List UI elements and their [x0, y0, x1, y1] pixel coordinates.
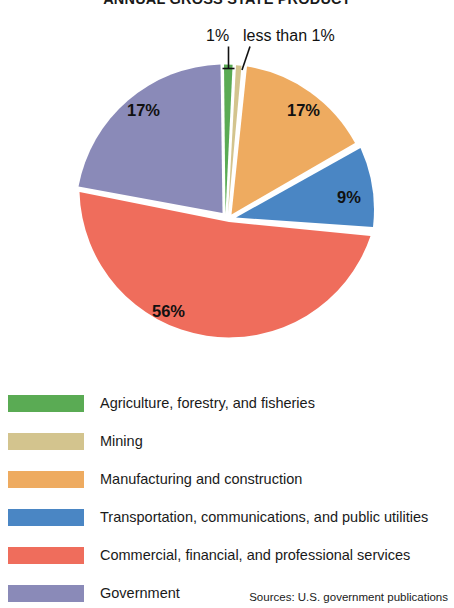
source-note: Sources: U.S. government publications	[249, 591, 448, 603]
legend-swatch-transportation	[8, 509, 84, 526]
legend-swatch-government	[8, 585, 84, 602]
pie-chart-svg	[0, 0, 454, 380]
slice-label-commercial: 56%	[152, 302, 185, 321]
legend-label-manufacturing: Manufacturing and construction	[100, 471, 302, 487]
legend-item-transportation[interactable]: Transportation, communications, and publ…	[0, 498, 454, 536]
slice-label-manufacturing: 17%	[287, 101, 320, 120]
legend: Agriculture, forestry, and fisheries Min…	[0, 384, 454, 608]
pie-slice-government[interactable]	[79, 65, 223, 214]
legend-label-mining: Mining	[100, 433, 143, 449]
legend-swatch-agriculture	[8, 395, 84, 412]
pie-chart: 1% less than 1% 17% 17% 9% 56%	[0, 0, 454, 380]
pie-slice-agriculture[interactable]	[224, 65, 233, 215]
callout-agriculture: 1%	[206, 27, 229, 45]
slice-label-transportation: 9%	[337, 188, 361, 207]
legend-label-government: Government	[100, 585, 180, 601]
slice-label-government: 17%	[127, 101, 160, 120]
legend-swatch-manufacturing	[8, 471, 84, 488]
legend-label-agriculture: Agriculture, forestry, and fisheries	[100, 395, 315, 411]
legend-item-manufacturing[interactable]: Manufacturing and construction	[0, 460, 454, 498]
leader-line-mining	[242, 47, 250, 71]
legend-swatch-mining	[8, 433, 84, 450]
legend-item-mining[interactable]: Mining	[0, 422, 454, 460]
legend-item-commercial[interactable]: Commercial, financial, and professional …	[0, 536, 454, 574]
callout-mining: less than 1%	[243, 27, 335, 45]
legend-label-commercial: Commercial, financial, and professional …	[100, 547, 410, 563]
legend-swatch-commercial	[8, 547, 84, 564]
legend-item-agriculture[interactable]: Agriculture, forestry, and fisheries	[0, 384, 454, 422]
legend-label-transportation: Transportation, communications, and publ…	[100, 509, 428, 525]
